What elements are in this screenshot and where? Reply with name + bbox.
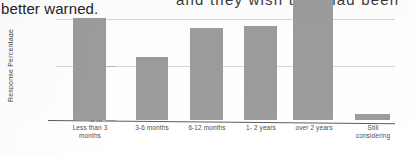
plot-area: 10% 0% Less than 3 months 3-6 months 6-1… [56,14,401,156]
x-tick-label-line1: Less than 3 [65,124,115,132]
bar-chart: Response Percentage 10% 0% Less than 3 m… [0,14,415,156]
x-tick-label-line1: 3-6 months [127,124,177,132]
x-tick-label-line1: 6-12 months [181,124,233,132]
x-tick-label-still-considering: Still considering [347,124,399,139]
x-tick-label-1-2-years: 1- 2 years [236,124,286,132]
y-tick-mark-10 [106,66,116,67]
x-tick-label-line2: months [65,132,115,140]
bar-3-6-months[interactable] [136,57,168,120]
bar-over-2-years[interactable] [293,0,333,120]
document-text-line-top: and they wish they had been [176,0,399,7]
bar-less-than-3-months[interactable] [73,18,106,120]
x-tick-label-6-12-months: 6-12 months [181,124,233,132]
x-tick-label-over-2-years: over 2 years [288,124,340,132]
bar-6-12-months[interactable] [190,28,223,120]
screenshot-root: and they wish they had been better warne… [0,0,415,156]
x-tick-label-line1: over 2 years [288,124,340,132]
bar-still-considering[interactable] [355,114,390,120]
x-tick-label-less-than-3-months: Less than 3 months [65,124,115,139]
x-tick-label-line1: 1- 2 years [236,124,286,132]
x-tick-label-line2: considering [347,132,399,140]
gridline-top [56,19,395,20]
x-tick-label-line1: Still [347,124,399,132]
bar-1-2-years[interactable] [244,26,277,120]
x-tick-label-3-6-months: 3-6 months [127,124,177,132]
y-axis-title: Response Percentage [7,12,14,120]
